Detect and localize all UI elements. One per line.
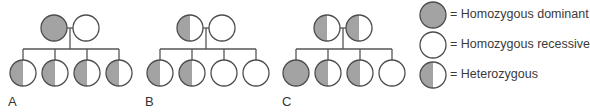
pedigree-a-child-heterozygous-symbol [42,60,68,86]
pedigree-c-parent-heterozygous-symbol [314,15,340,41]
pedigree-b-child-heterozygous-symbol [147,60,173,86]
pedigree-b-parent-heterozygous-symbol [177,15,203,41]
pedigree-a-parent-recessive-symbol [73,15,99,41]
pedigree-c-parent-heterozygous-symbol [346,15,372,41]
pedigree-c-child-recessive-symbol [379,60,405,86]
pedigree-c-child-heterozygous-symbol [347,60,373,86]
pedigree-a-parent-dominant-symbol [41,15,67,41]
pedigree-b-child-recessive-symbol [243,60,269,86]
legend-heterozygous-symbol [420,62,446,88]
pedigree-label-a: A [8,94,17,109]
pedigree-label-c: C [282,94,291,109]
pedigree-c-child-dominant-symbol [283,60,309,86]
pedigree-c-child-heterozygous-symbol [315,60,341,86]
legend-dominant-symbol [420,2,446,28]
pedigree-a-child-heterozygous-symbol [10,60,36,86]
pedigree-b-child-heterozygous-symbol [179,60,205,86]
pedigree-label-b: B [145,94,154,109]
pedigree-a-child-heterozygous-symbol [106,60,132,86]
legend-recessive-symbol [420,32,446,58]
legend-heterozygous-text: = Heterozygous [450,67,538,81]
pedigree-b-child-recessive-symbol [211,60,237,86]
legend-dominant-text: = Homozygous dominant [450,7,589,21]
pedigree-b-parent-recessive-symbol [209,15,235,41]
pedigree-a-child-heterozygous-symbol [74,60,100,86]
legend-recessive-text: = Homozygous recessive [450,37,590,51]
